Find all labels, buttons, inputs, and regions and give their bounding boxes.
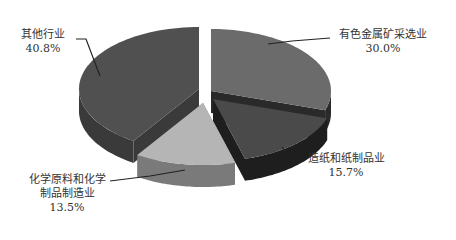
label-name: 有色金属矿采选业 <box>330 28 436 42</box>
label-name: 造纸和纸制品业 <box>300 152 392 166</box>
label-value: 13.5% <box>22 201 112 215</box>
pie-slices <box>79 27 331 187</box>
label-name-line2: 制品制造业 <box>22 187 112 201</box>
label-other-industries: 其他行业 40.8% <box>10 28 76 56</box>
label-value: 30.0% <box>330 42 436 56</box>
label-name-line1: 化学原料和化学 <box>22 173 112 187</box>
label-name: 其他行业 <box>10 28 76 42</box>
label-value: 15.7% <box>300 166 392 180</box>
label-paper-products: 造纸和纸制品业 15.7% <box>300 152 392 180</box>
label-value: 40.8% <box>10 42 76 56</box>
label-nonferrous-mining: 有色金属矿采选业 30.0% <box>330 28 436 56</box>
label-chemical-manufacturing: 化学原料和化学 制品制造业 13.5% <box>22 173 112 215</box>
